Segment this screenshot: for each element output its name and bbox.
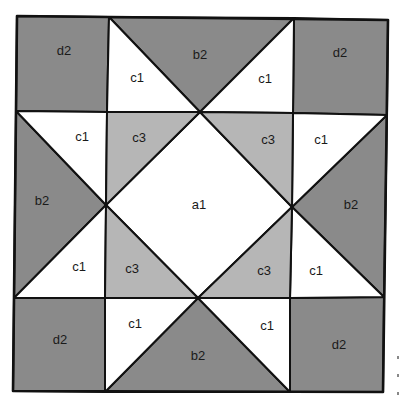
piece-label-star-left-upper: c1 [75,129,89,144]
piece-label-corner-bl: d2 [53,332,67,347]
piece-label-star-right-upper: c1 [314,132,328,147]
piece-label-star-top-right: c1 [258,71,272,86]
piece-label-inner-tl: c3 [132,130,146,145]
piece-label-side-top: b2 [193,47,207,62]
stray-mark [397,392,399,395]
piece-label-star-top-left: c1 [130,70,144,85]
piece-label-side-right: b2 [344,197,358,212]
piece-label-corner-br: d2 [332,337,346,352]
piece-label-star-left-lower: c1 [72,259,86,274]
piece-label-inner-tr: c3 [261,132,275,147]
piece-label-inner-br: c3 [257,263,271,278]
quilt-diagram: d2d2d2d2a1b2b2b2b2c1c1c1c1c1c1c1c1c3c3c3… [0,0,402,412]
piece-label-star-right-lower: c1 [309,263,323,278]
piece-label-side-bottom: b2 [191,348,205,363]
piece-label-star-bottom-left: c1 [128,316,142,331]
piece-label-corner-tl: d2 [57,43,71,58]
piece-label-inner-bl: c3 [125,261,139,276]
piece-label-corner-tr: d2 [333,45,347,60]
piece-label-star-bottom-right: c1 [260,318,274,333]
edge-marks [397,356,399,395]
piece-label-side-left: b2 [35,193,49,208]
piece-corner-tl [16,16,109,112]
stray-mark [397,374,399,377]
piece-label-center: a1 [192,197,206,212]
stray-mark [397,356,399,359]
piece-corner-tr [293,18,388,115]
